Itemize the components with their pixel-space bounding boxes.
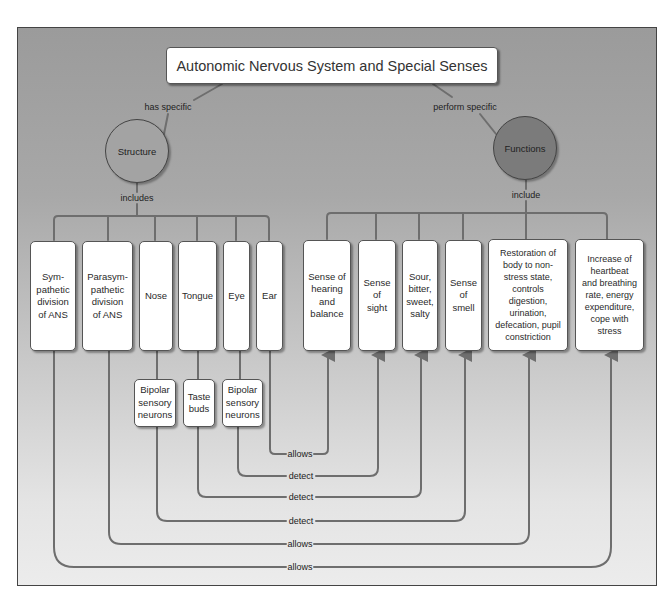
box-sympathetic: Sym- pathetic division of ANS (30, 241, 76, 351)
label-has-specific: has specific (141, 102, 194, 112)
relation-label-nose-detect: detect (286, 516, 317, 526)
relation-label-eye-detect: detect (286, 471, 317, 481)
box-hearing: Sense of hearing and balance (303, 240, 351, 351)
relation-label-sym-allows: allows (284, 562, 315, 572)
box-parasympathetic: Parasym- pathetic division of ANS (82, 241, 133, 351)
box-eye: Eye (223, 241, 250, 351)
box-increase: Increase of heartbeat and breathing rate… (575, 239, 644, 351)
relation-label-ear-allows: allows (284, 449, 315, 459)
label-include: include (509, 190, 544, 200)
node-functions-label: Functions (504, 143, 545, 154)
relation-label-taste-detect: detect (286, 492, 317, 502)
box-nose: Nose (139, 241, 173, 351)
node-structure: Structure (105, 119, 169, 183)
relation-label-parasym-allows: allows (284, 539, 315, 549)
box-tongue: Tongue (178, 241, 217, 351)
box-bipolar-nose: Bipolar sensory neurons (134, 379, 176, 427)
label-includes: includes (117, 193, 156, 203)
box-smell: Sense of smell (445, 240, 482, 351)
box-taste: Sour, bitter, sweet, salty (402, 240, 438, 351)
box-restoration: Restoration of body to non- stress state… (488, 239, 568, 351)
diagram-title: Autonomic Nervous System and Special Sen… (166, 47, 498, 84)
box-ear: Ear (256, 241, 283, 351)
node-structure-label: Structure (118, 146, 157, 157)
node-functions: Functions (493, 116, 557, 180)
label-perform-specific: perform specific (430, 102, 500, 112)
box-bipolar-eye: Bipolar sensory neurons (222, 379, 263, 427)
box-taste-buds: Taste buds (183, 379, 215, 427)
box-sight: Sense of sight (358, 240, 396, 351)
